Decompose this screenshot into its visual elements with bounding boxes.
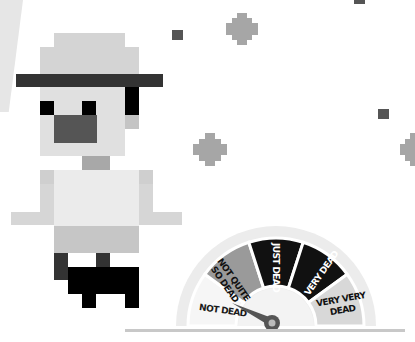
sparkles-layer: NOT DEAD NOT QUITE SO DEAD JUST DEAD VER… [0, 0, 415, 342]
sparkle-icon [193, 133, 227, 166]
sparkle-icon [400, 133, 415, 166]
ground-line [125, 329, 405, 332]
label-just-dead: JUST DEAD [271, 242, 281, 292]
sparkle-icon [226, 13, 258, 45]
death-meter-gauge: NOT DEAD NOT QUITE SO DEAD JUST DEAD VER… [176, 226, 376, 331]
